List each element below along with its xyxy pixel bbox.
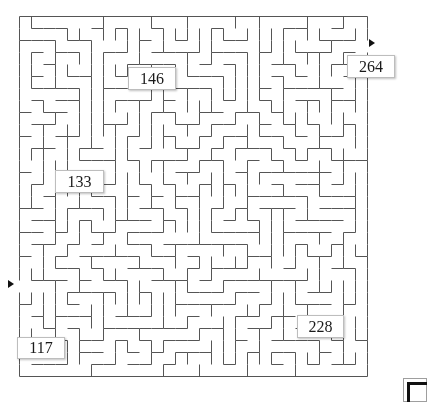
corner-widget-icon[interactable] — [403, 378, 427, 402]
number-label-146: 146 — [128, 67, 176, 90]
exit-arrow-icon — [369, 39, 375, 47]
number-label-133: 133 — [55, 170, 104, 193]
bracket-glyph-icon — [407, 382, 427, 402]
number-label-264: 264 — [347, 55, 395, 78]
number-label-117: 117 — [17, 337, 65, 359]
number-label-228: 228 — [297, 315, 344, 338]
entrance-arrow-icon — [8, 280, 14, 288]
